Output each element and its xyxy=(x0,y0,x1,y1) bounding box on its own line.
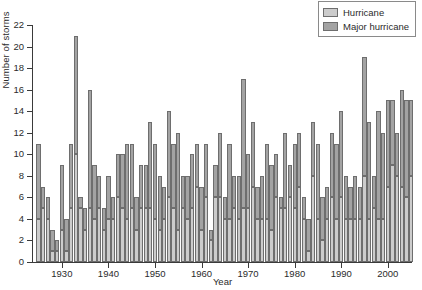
bar-segment-hurricane xyxy=(55,251,59,262)
y-tick xyxy=(27,240,32,241)
bar-segment-major-hurricane xyxy=(223,197,227,219)
bar-segment-major-hurricane xyxy=(320,197,324,240)
y-tick xyxy=(27,176,32,177)
bar xyxy=(390,100,394,262)
bar xyxy=(130,144,134,263)
bar xyxy=(74,36,78,262)
bar-segment-hurricane xyxy=(125,219,129,262)
legend-swatch-hurricane xyxy=(323,8,338,17)
bar-segment-hurricane xyxy=(237,219,241,262)
bar-segment-hurricane xyxy=(269,230,273,262)
bar xyxy=(102,208,106,262)
bar-segment-hurricane xyxy=(316,219,320,262)
bar-segment-major-hurricane xyxy=(176,133,180,230)
bar-segment-hurricane xyxy=(171,208,175,262)
bar xyxy=(88,90,92,262)
bar xyxy=(209,230,213,262)
bar-segment-hurricane xyxy=(381,219,385,262)
bar-segment-hurricane xyxy=(162,219,166,262)
bar-segment-hurricane xyxy=(344,219,348,262)
bar-segment-major-hurricane xyxy=(218,133,222,198)
bar-segment-hurricane xyxy=(260,219,264,262)
bar xyxy=(339,111,343,262)
bar-segment-hurricane xyxy=(409,176,413,262)
bar-segment-hurricane xyxy=(181,208,185,262)
bar xyxy=(260,176,264,262)
y-tick-label: 20 xyxy=(0,42,24,51)
bar-segment-major-hurricane xyxy=(372,176,376,208)
y-tick-label: 14 xyxy=(0,106,24,115)
bar xyxy=(55,240,59,262)
bar xyxy=(344,176,348,262)
bar-segment-hurricane xyxy=(386,187,390,262)
bar xyxy=(218,133,222,262)
bar-segment-hurricane xyxy=(306,251,310,262)
bar-segment-major-hurricane xyxy=(297,133,301,187)
bar-segment-hurricane xyxy=(190,208,194,262)
bar-segment-hurricane xyxy=(130,208,134,262)
bar xyxy=(153,144,157,263)
bar xyxy=(213,165,217,262)
bar-segment-major-hurricane xyxy=(386,100,390,186)
bar xyxy=(97,176,101,262)
bar xyxy=(395,133,399,262)
bar-segment-hurricane xyxy=(288,197,292,262)
legend-swatch-major-hurricane xyxy=(323,22,338,31)
bar xyxy=(185,176,189,262)
bar xyxy=(41,187,45,262)
bar-segment-major-hurricane xyxy=(260,176,264,219)
x-tick-label: 1940 xyxy=(88,268,128,279)
bar-segment-hurricane xyxy=(97,208,101,262)
bar-segment-hurricane xyxy=(134,230,138,262)
bar-segment-hurricane xyxy=(348,219,352,262)
bar xyxy=(348,187,352,262)
bar-segment-major-hurricane xyxy=(381,133,385,219)
bar xyxy=(36,144,40,263)
bar xyxy=(274,154,278,262)
bar xyxy=(60,165,64,262)
bar-segment-major-hurricane xyxy=(237,176,241,219)
y-tick xyxy=(27,133,32,134)
y-tick-label: 18 xyxy=(0,63,24,72)
bar-segment-major-hurricane xyxy=(162,187,166,219)
bar-segment-major-hurricane xyxy=(78,197,82,208)
bar-segment-major-hurricane xyxy=(190,154,194,208)
bar xyxy=(120,154,124,262)
bar-segment-hurricane xyxy=(199,230,203,262)
bar xyxy=(125,144,129,263)
bar-segment-major-hurricane xyxy=(316,144,320,219)
bar xyxy=(171,144,175,263)
bar xyxy=(116,154,120,262)
bar-segment-major-hurricane xyxy=(88,90,92,209)
bar xyxy=(69,144,73,263)
bar-segment-hurricane xyxy=(302,219,306,262)
bar-segment-hurricane xyxy=(116,197,120,262)
bar-segment-major-hurricane xyxy=(64,219,68,251)
bar-segment-hurricane xyxy=(88,208,92,262)
chart-legend: Hurricane Major hurricane xyxy=(318,1,416,37)
bar xyxy=(139,165,143,262)
bar-segment-hurricane xyxy=(106,219,110,262)
bar-segment-major-hurricane xyxy=(395,133,399,176)
bar xyxy=(111,197,115,262)
plot-area xyxy=(33,25,412,262)
bar-segment-major-hurricane xyxy=(116,154,120,197)
bar xyxy=(409,100,413,262)
bar-segment-major-hurricane xyxy=(50,230,54,252)
bar-segment-major-hurricane xyxy=(339,111,343,197)
bar-segment-major-hurricane xyxy=(404,100,408,197)
bar-segment-major-hurricane xyxy=(288,165,292,197)
bar-segment-major-hurricane xyxy=(97,176,101,208)
bar xyxy=(400,90,404,262)
bar xyxy=(255,187,259,262)
bar-segment-major-hurricane xyxy=(302,197,306,219)
bar-segment-major-hurricane xyxy=(246,154,250,208)
bar-segment-hurricane xyxy=(204,197,208,262)
bar-segment-hurricane xyxy=(195,187,199,262)
bar xyxy=(381,133,385,262)
bar-segment-hurricane xyxy=(339,197,343,262)
bar-segment-hurricane xyxy=(153,219,157,262)
bar xyxy=(376,111,380,262)
bar-segment-hurricane xyxy=(325,219,329,262)
bar xyxy=(223,197,227,262)
